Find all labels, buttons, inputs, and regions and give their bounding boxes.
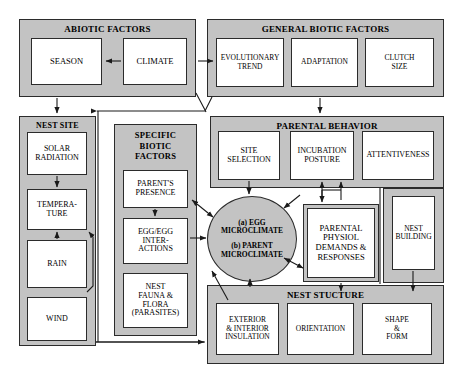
node-rain-label: RAIN bbox=[47, 260, 67, 269]
node-adaptation[interactable]: ADAPTATION bbox=[291, 38, 358, 87]
node-adaptation-label: ADAPTATION bbox=[301, 58, 348, 66]
node-exterior-interior-insulation-label: EXTERIOR & INTERIOR INSULATION bbox=[225, 316, 270, 341]
node-wind[interactable]: WIND bbox=[27, 297, 87, 341]
node-solar-radiation[interactable]: SOLAR RADIATION bbox=[27, 132, 87, 175]
node-nest-fauna-flora-label: NEST FAUNA & FLORA (PARASITES) bbox=[132, 283, 179, 319]
node-incubation-posture[interactable]: INCUBATION POSTURE bbox=[290, 131, 354, 180]
group-abiotic-factors-title: ABIOTIC FACTORS bbox=[20, 24, 195, 34]
node-parental-physiol[interactable]: PARENTAL PHYSIOL DEMANDS & RESPONSES bbox=[307, 208, 375, 278]
node-nest-building[interactable]: NEST BUILDING bbox=[392, 196, 435, 270]
node-evolutionary-trend-label: EVOLUTIONARY TREND bbox=[221, 54, 280, 71]
group-parental-behavior-title: PARENTAL BEHAVIOR bbox=[211, 121, 443, 131]
edge-abiotic-to-parental-behavior bbox=[196, 93, 206, 112]
node-shape-form-label: SHAPE & FORM bbox=[385, 316, 409, 341]
node-clutch-size-label: CLUTCH SIZE bbox=[385, 54, 415, 71]
group-specific-biotic-factors-title: SPECIFIC BIOTIC FACTORS bbox=[115, 130, 196, 162]
node-rain[interactable]: RAIN bbox=[27, 240, 87, 288]
node-incubation-posture-label: INCUBATION POSTURE bbox=[298, 147, 347, 165]
node-egg-egg-interactions[interactable]: EGG/EGG INTER- ACTIONS bbox=[123, 218, 188, 264]
node-climate[interactable]: CLIMATE bbox=[123, 38, 187, 85]
node-temperature-label: TEMPERA- TURE bbox=[37, 201, 77, 219]
node-solar-radiation-label: SOLAR RADIATION bbox=[35, 145, 79, 163]
group-nest-site-title: NEST SITE bbox=[20, 121, 95, 130]
node-evolutionary-trend[interactable]: EVOLUTIONARY TREND bbox=[216, 38, 284, 87]
node-attentiveness[interactable]: ATTENTIVENESS bbox=[362, 131, 434, 180]
node-egg-egg-interactions-label: EGG/EGG INTER- ACTIONS bbox=[138, 228, 173, 255]
node-parental-physiol-label: PARENTAL PHYSIOL DEMANDS & RESPONSES bbox=[316, 224, 367, 262]
node-egg-parent-microclimate[interactable]: (a) EGG MICROCLIMATE (b) PARENT MICROCLI… bbox=[207, 196, 297, 282]
node-orientation-label: ORIENTATION bbox=[296, 325, 345, 333]
microclimate-parent-label: (b) PARENT MICROCLIMATE bbox=[221, 242, 283, 259]
node-orientation[interactable]: ORIENTATION bbox=[287, 303, 354, 355]
node-season-label: SEASON bbox=[50, 57, 83, 67]
node-wind-label: WIND bbox=[46, 315, 68, 324]
node-parents-presence-label: PARENT'S PRESENCE bbox=[135, 180, 175, 198]
edge-general-biotic-to-nest-site bbox=[97, 97, 212, 111]
node-parental-physiol-frame: PARENTAL PHYSIOL DEMANDS & RESPONSES bbox=[303, 204, 379, 282]
node-temperature[interactable]: TEMPERA- TURE bbox=[27, 189, 87, 230]
node-climate-label: CLIMATE bbox=[137, 57, 174, 67]
node-nest-building-label: NEST BUILDING bbox=[395, 225, 431, 242]
group-nest-structure-title: NEST STUCTURE bbox=[208, 290, 443, 300]
node-nest-fauna-flora[interactable]: NEST FAUNA & FLORA (PARASITES) bbox=[123, 273, 188, 328]
node-exterior-interior-insulation[interactable]: EXTERIOR & INTERIOR INSULATION bbox=[216, 303, 279, 355]
node-attentiveness-label: ATTENTIVENESS bbox=[366, 151, 429, 160]
node-site-selection[interactable]: SITE SELECTION bbox=[218, 131, 280, 180]
diagram-canvas: ABIOTIC FACTORS SEASON CLIMATE GENERAL B… bbox=[0, 0, 460, 376]
group-general-biotic-factors-title: GENERAL BIOTIC FACTORS bbox=[208, 24, 443, 34]
node-season[interactable]: SEASON bbox=[31, 38, 102, 85]
node-clutch-size[interactable]: CLUTCH SIZE bbox=[365, 38, 434, 87]
microclimate-egg-label: (a) EGG MICROCLIMATE bbox=[221, 219, 283, 236]
node-site-selection-label: SITE SELECTION bbox=[227, 147, 271, 165]
node-shape-form[interactable]: SHAPE & FORM bbox=[362, 303, 432, 355]
edge-parental-behavior-to-microclimate bbox=[284, 195, 300, 208]
node-parents-presence[interactable]: PARENT'S PRESENCE bbox=[123, 170, 188, 208]
